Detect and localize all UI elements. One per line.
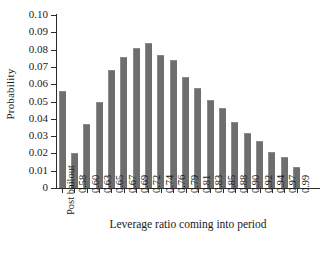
bar	[145, 43, 152, 188]
x-axis-tick	[111, 189, 112, 193]
y-axis-tick-label: 0.06	[16, 78, 48, 89]
bar	[157, 55, 164, 188]
x-axis-tick	[99, 189, 100, 193]
y-axis-tick-label: 0	[16, 182, 48, 193]
y-axis-title-label: Probability	[4, 68, 16, 119]
y-axis-tick	[51, 188, 56, 189]
y-axis-tick	[51, 171, 56, 172]
x-axis-tick	[124, 189, 125, 193]
y-axis-tick-label: 0.05	[16, 96, 48, 107]
y-axis-tick-label: 0.09	[16, 26, 48, 37]
probability-bar-chart: Probability 0.100.090.080.070.060.050.04…	[0, 0, 332, 259]
x-axis-tick	[186, 189, 187, 193]
x-axis-tick	[235, 189, 236, 193]
x-axis-tick	[74, 189, 75, 193]
bar	[133, 48, 140, 188]
y-axis-tick	[51, 67, 56, 68]
y-axis-tick-label: 0.03	[16, 130, 48, 141]
bar	[194, 88, 201, 188]
y-axis-tick-label: 0.10	[16, 9, 48, 20]
x-axis-tick	[260, 189, 261, 193]
x-axis-tick	[223, 189, 224, 193]
y-axis-tick	[51, 84, 56, 85]
x-axis-tick	[148, 189, 149, 193]
x-axis-tick	[247, 189, 248, 193]
x-axis-tick	[136, 189, 137, 193]
y-axis-line	[56, 14, 57, 189]
x-axis-tick	[62, 189, 63, 193]
y-axis-tick	[51, 102, 56, 103]
x-axis-tick	[272, 189, 273, 193]
y-axis-tick	[51, 153, 56, 154]
y-axis-tick-label: 0.04	[16, 113, 48, 124]
y-axis-tick-label: 0.01	[16, 165, 48, 176]
y-axis-tick	[51, 50, 56, 51]
y-axis-tick-label: 0.08	[16, 44, 48, 55]
y-axis-tick	[51, 136, 56, 137]
bar	[120, 57, 127, 188]
x-axis-tick	[284, 189, 285, 193]
x-axis-tick	[198, 189, 199, 193]
x-axis-tick	[87, 189, 88, 193]
y-axis-tick	[51, 15, 56, 16]
y-axis-tick-label: 0.02	[16, 147, 48, 158]
x-axis-tick	[297, 189, 298, 193]
y-axis-tick	[51, 32, 56, 33]
x-axis-tick	[210, 189, 211, 193]
bar	[108, 70, 115, 188]
bar	[182, 77, 189, 188]
y-axis-tick	[51, 119, 56, 120]
x-axis-tick	[161, 189, 162, 193]
bar	[170, 60, 177, 188]
x-axis-tick	[173, 189, 174, 193]
x-axis-title: Leverage ratio coming into period	[57, 218, 319, 230]
x-axis-tick-label: 0.99	[301, 175, 312, 193]
y-axis-tick-label: 0.07	[16, 61, 48, 72]
